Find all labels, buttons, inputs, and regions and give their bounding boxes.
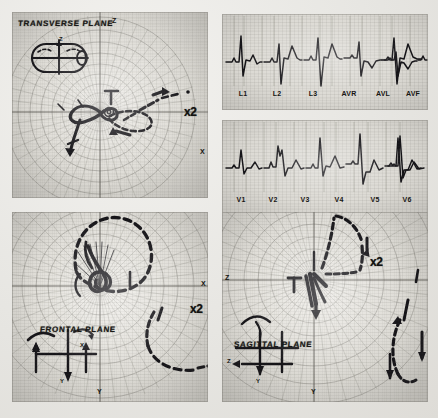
sagittal-inset-axis-y-label: Y bbox=[256, 378, 260, 384]
ecg-lead-label-v1: V1 bbox=[230, 196, 252, 203]
ecg-lead-label-avl: AVL bbox=[370, 90, 396, 97]
ecg-lead-label-avf: AVF bbox=[400, 90, 426, 97]
frontal-axis-x-label: X bbox=[201, 280, 206, 287]
frontal-axis-y-label: Y bbox=[97, 388, 102, 395]
frontal-inset-axis-x-label: X bbox=[80, 342, 84, 348]
sagittal-inset-axis-z-label: Z bbox=[227, 358, 231, 364]
ecg-lead-label-v4: V4 bbox=[328, 196, 350, 203]
sagittal-axis-y-label: Y bbox=[311, 388, 316, 395]
sagittal-plane-label: SAGITTAL PLANE bbox=[234, 340, 313, 349]
transverse-plane-label: TRANSVERSE PLANE bbox=[18, 19, 114, 28]
panel-sagittal-plane: SAGITTAL PLANE x2 Z Y Z Y bbox=[222, 212, 428, 402]
ecg-lead-label-v3: V3 bbox=[294, 196, 316, 203]
transverse-axis-z-label: Z bbox=[112, 17, 116, 24]
transverse-magnification-label: x2 bbox=[184, 105, 196, 119]
transverse-inset-axis-z-label: Z bbox=[59, 36, 63, 42]
figure-sheet: TRANSVERSE PLANE Z Z x2 X bbox=[0, 0, 438, 418]
sagittal-axis-z-label: Z bbox=[225, 274, 229, 281]
ecg-lead-label-avr: AVR bbox=[336, 90, 362, 97]
panel-ecg-limb-leads: L1 L2 L3 AVR AVL AVF bbox=[222, 14, 428, 110]
ecg-lead-label-v6: V6 bbox=[396, 196, 418, 203]
panel-transverse-plane: TRANSVERSE PLANE Z Z x2 X bbox=[12, 12, 208, 198]
frontal-inset-axis-y-label: Y bbox=[60, 378, 64, 384]
frontal-vcg-plot bbox=[12, 212, 208, 402]
panel-frontal-plane: FRONTAL PLANE x2 X Y X Y bbox=[12, 212, 208, 402]
ecg-lead-label-l2: L2 bbox=[266, 90, 288, 97]
frontal-plane-label: FRONTAL PLANE bbox=[40, 325, 117, 334]
sagittal-vcg-plot bbox=[222, 212, 428, 402]
ecg-lead-label-l3: L3 bbox=[302, 90, 324, 97]
sagittal-magnification-label: x2 bbox=[370, 255, 382, 269]
frontal-magnification-label: x2 bbox=[190, 302, 202, 316]
transverse-axis-x-label: X bbox=[200, 148, 205, 155]
ecg-lead-label-l1: L1 bbox=[232, 90, 254, 97]
transverse-vcg-plot bbox=[12, 12, 208, 198]
ecg-lead-label-v5: V5 bbox=[364, 196, 386, 203]
ecg-lead-label-v2: V2 bbox=[262, 196, 284, 203]
panel-ecg-precordial-leads: V1 V2 V3 V4 V5 V6 bbox=[222, 120, 428, 216]
